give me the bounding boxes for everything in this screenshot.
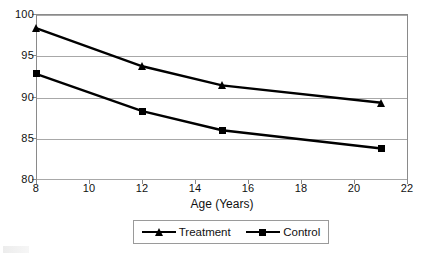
triangle-marker-icon: [155, 228, 163, 236]
square-marker-icon: [259, 229, 266, 236]
chart-legend: Treatment Control: [133, 220, 329, 244]
line-control: [36, 74, 381, 149]
legend-swatch-control: [246, 226, 280, 238]
legend-swatch-treatment: [142, 226, 176, 238]
legend-label-control: Control: [283, 226, 320, 238]
series-lines: [0, 0, 445, 255]
legend-label-treatment: Treatment: [179, 226, 231, 238]
legend-item-control: Control: [246, 226, 320, 238]
x-axis-label: Age (Years): [36, 198, 408, 211]
legend-item-treatment: Treatment: [142, 226, 231, 238]
chart-figure: 100 95 90 85 80 8 10 12 14 16 18 20 22 A…: [0, 0, 445, 255]
caption-fragment: [3, 246, 29, 253]
